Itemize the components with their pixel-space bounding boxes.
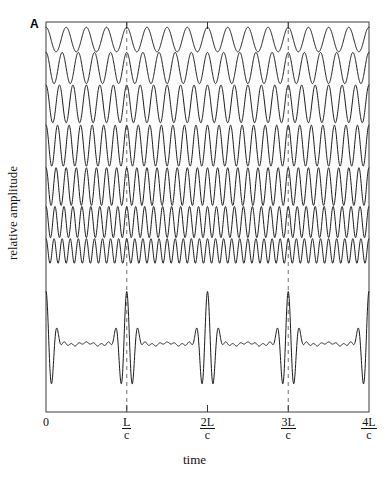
fraction: 2Lc <box>200 416 215 441</box>
panel-label: A <box>30 17 39 31</box>
fraction-denominator: c <box>122 428 131 441</box>
x-tick-label-0: 0 <box>26 416 66 428</box>
fraction-denominator: c <box>200 428 215 441</box>
fraction-denominator: c <box>281 428 296 441</box>
fraction-numerator: 3L <box>281 416 296 428</box>
fraction-denominator: c <box>361 428 376 441</box>
x-tick-label-1: Lc <box>107 416 147 441</box>
fraction: 3Lc <box>281 416 296 441</box>
figure-panel: A relative amplitude time 0Lc2Lc3Lc4Lc <box>0 0 389 477</box>
fraction-numerator: L <box>122 416 131 428</box>
waveform-plot <box>0 0 389 477</box>
x-tick-label-3: 3Lc <box>268 416 308 441</box>
y-axis-label: relative amplitude <box>5 133 21 293</box>
fraction: 4Lc <box>361 416 376 441</box>
x-tick-label-4: 4Lc <box>349 416 389 441</box>
fraction: Lc <box>122 416 131 441</box>
fraction-numerator: 2L <box>200 416 215 428</box>
x-axis-label: time <box>0 452 389 468</box>
x-tick-label-2: 2Lc <box>188 416 228 441</box>
plot-background <box>0 0 389 477</box>
fraction-numerator: 4L <box>361 416 376 428</box>
